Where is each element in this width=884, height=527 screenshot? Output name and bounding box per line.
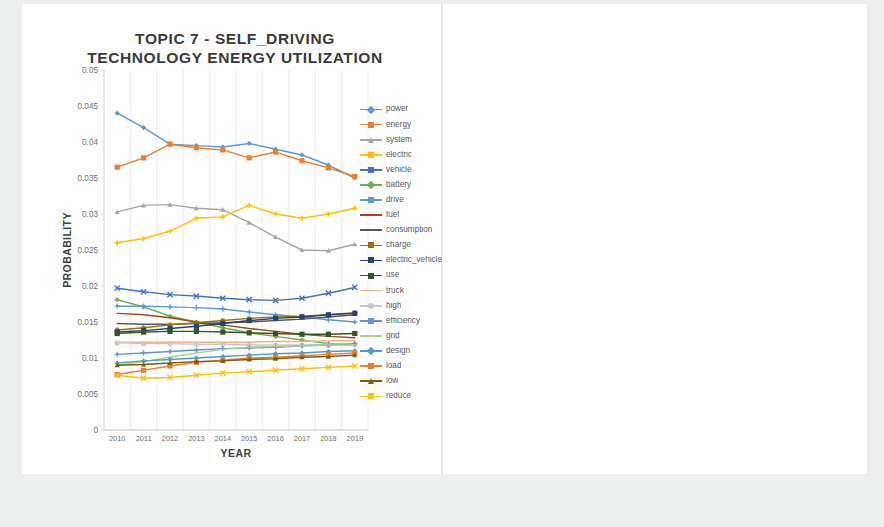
- legend-label: efficiency: [386, 317, 420, 325]
- legend-label: fuel: [386, 211, 399, 219]
- legend-marker-icon: [360, 391, 382, 401]
- legend-label: high: [386, 302, 401, 310]
- legend-marker-icon: [360, 210, 382, 220]
- x-tick-label: 2014: [215, 434, 231, 443]
- y-tick-label: 0.03: [82, 210, 98, 219]
- legend-label: low: [386, 377, 398, 385]
- legend-label: battery: [386, 181, 411, 189]
- legend-label: drive: [386, 196, 404, 204]
- y-tick-label: 0.035: [78, 174, 99, 183]
- legend-label: use: [386, 271, 399, 279]
- legend-marker-icon: [360, 105, 382, 115]
- legend-marker-icon: [360, 240, 382, 250]
- plot-area-topic7: 00.0050.010.0150.020.0250.030.0350.040.0…: [62, 64, 372, 464]
- y-tick-label: 0.015: [78, 318, 99, 327]
- legend-marker-icon: [360, 331, 382, 341]
- y-tick-label: 0.045: [78, 102, 99, 111]
- y-tick-label: 0.005: [78, 390, 99, 399]
- y-axis-label: PROBABILITY: [62, 212, 73, 288]
- x-axis-label: YEAR: [221, 447, 252, 459]
- legend-label: reduce: [386, 392, 411, 400]
- legend-label: charge: [386, 241, 411, 249]
- legend-marker-icon: [360, 316, 382, 326]
- legend-label: electric: [386, 151, 412, 159]
- legend-label: power: [386, 105, 408, 113]
- legend-marker-icon: [360, 120, 382, 130]
- legend-marker-icon: [360, 150, 382, 160]
- y-tick-label: 0.04: [82, 138, 98, 147]
- legend-marker-icon: [360, 271, 382, 281]
- legend-marker-icon: [360, 225, 382, 235]
- chart-title-topic7-line-1: TOPIC 7 - SELF_DRIVING: [70, 30, 400, 49]
- chart-panel-topic7: TOPIC 7 - SELF_DRIVINGTECHNOLOGY ENERGY …: [22, 4, 442, 474]
- legend-marker-icon: [360, 286, 382, 296]
- chart-panel-topic8: TOPIC 8 - NAVIGATION IN SELF-DRIVING 00.…: [443, 4, 867, 474]
- chart-title-topic7: TOPIC 7 - SELF_DRIVINGTECHNOLOGY ENERGY …: [70, 30, 400, 68]
- legend-marker-icon: [360, 346, 382, 356]
- legend-label: vehicle: [386, 166, 412, 174]
- legend-label: system: [386, 136, 412, 144]
- x-tick-label: 2013: [188, 434, 204, 443]
- legend-label: truck: [386, 287, 404, 295]
- legend-marker-icon: [360, 361, 382, 371]
- legend-marker-icon: [360, 135, 382, 145]
- x-tick-label: 2015: [241, 434, 257, 443]
- legend-marker-icon: [360, 376, 382, 386]
- x-tick-label: 2010: [109, 434, 125, 443]
- legend-label: load: [386, 362, 401, 370]
- screenshot-root: TOPIC 7 - SELF_DRIVINGTECHNOLOGY ENERGY …: [0, 0, 884, 527]
- legend-label: grid: [386, 332, 400, 340]
- x-tick-label: 2017: [294, 434, 310, 443]
- x-tick-labels: 2010201120122013201420152016201720182019: [109, 434, 363, 443]
- chart-svg-1: 00.0050.010.0150.020.0250.030.0350.040.0…: [62, 64, 372, 464]
- legend-label: consumption: [386, 226, 432, 234]
- x-tick-label: 2019: [347, 434, 363, 443]
- x-tick-label: 2018: [320, 434, 336, 443]
- y-tick-labels: 00.0050.010.0150.020.0250.030.0350.040.0…: [78, 66, 105, 435]
- legend-label: design: [386, 347, 410, 355]
- legend-marker-icon: [360, 165, 382, 175]
- y-tick-label: 0.025: [78, 246, 99, 255]
- x-tick-label: 2016: [267, 434, 283, 443]
- legend-label: electric_vehicle: [386, 256, 442, 264]
- legend-marker-icon: [360, 195, 382, 205]
- x-tick-label: 2011: [136, 434, 152, 443]
- legend-marker-icon: [360, 301, 382, 311]
- legend-marker-icon: [360, 255, 382, 265]
- y-tick-label: 0.02: [82, 282, 98, 291]
- y-tick-label: 0: [93, 426, 98, 435]
- y-tick-label: 0.01: [82, 354, 98, 363]
- x-tick-label: 2012: [162, 434, 178, 443]
- legend-marker-icon: [360, 180, 382, 190]
- legend-label: energy: [386, 121, 411, 129]
- y-tick-label: 0.05: [82, 66, 98, 75]
